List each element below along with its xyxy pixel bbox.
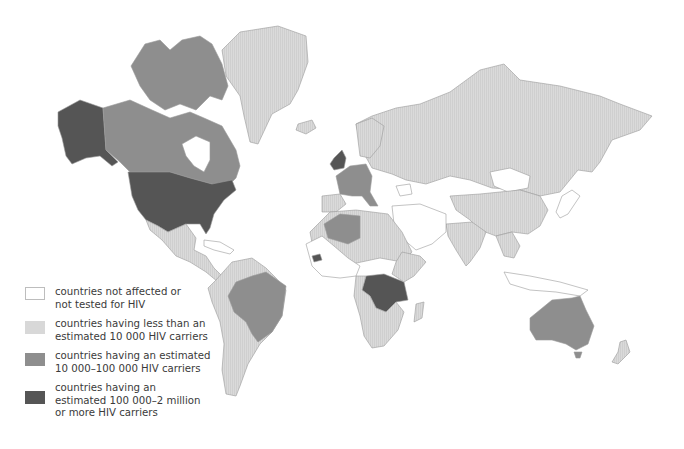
region-madagascar [414,302,424,322]
region-japan [556,190,580,218]
region-southeast-asia [496,232,520,258]
legend-label: not tested for HIV [55,299,265,312]
legend-item-low: countries having less than an estimated … [25,318,265,343]
region-india [446,222,486,266]
legend-label: countries having less than an [55,318,265,331]
legend-label: estimated 100 000–2 million [55,395,265,408]
legend-label: estimated 10 000 HIV carriers [55,331,265,344]
legend-item-medium: countries having an estimated 10 000–100… [25,350,265,375]
region-greenland [222,26,308,144]
region-iceland [296,120,316,134]
region-uk [330,150,346,170]
legend: countries not affected or not tested for… [25,286,265,427]
legend-item-none: countries not affected or not tested for… [25,286,265,311]
legend-swatch-none [25,287,45,300]
region-caribbean [204,240,234,254]
legend-label: countries not affected or [55,286,265,299]
black-sea [396,184,412,196]
region-arctic-islands [131,36,228,110]
legend-label: or more HIV carriers [55,407,265,420]
legend-label: countries having an [55,382,265,395]
region-tasmania [574,352,582,358]
legend-swatch-high [25,391,45,404]
region-mexico [146,220,224,282]
legend-label: 10 000–100 000 HIV carriers [55,363,265,376]
legend-swatch-low [25,321,45,334]
legend-item-high: countries having an estimated 100 000–2 … [25,382,265,420]
region-indonesia [504,272,588,296]
legend-label: countries having an estimated [55,350,265,363]
legend-swatch-medium [25,353,45,366]
region-iberia [322,194,346,212]
region-australia [530,296,594,350]
region-new-zealand [612,340,630,364]
